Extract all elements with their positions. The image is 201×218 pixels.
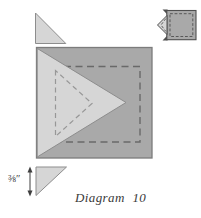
inset-triangle [158,16,168,35]
measurement-label: ⅜″ [8,173,20,184]
inset-square [167,11,196,40]
trim-triangle-bottom [36,167,67,196]
corner-triangle-top [36,13,66,44]
measurement-arrow-icon [28,167,33,197]
figure-caption: Diagram 10 [74,190,146,205]
inset-diagram [158,10,197,41]
book-page-figure: ⅜″ Diagram 10 [0,0,201,218]
diagram-10-figure: ⅜″ Diagram 10 [0,0,201,218]
